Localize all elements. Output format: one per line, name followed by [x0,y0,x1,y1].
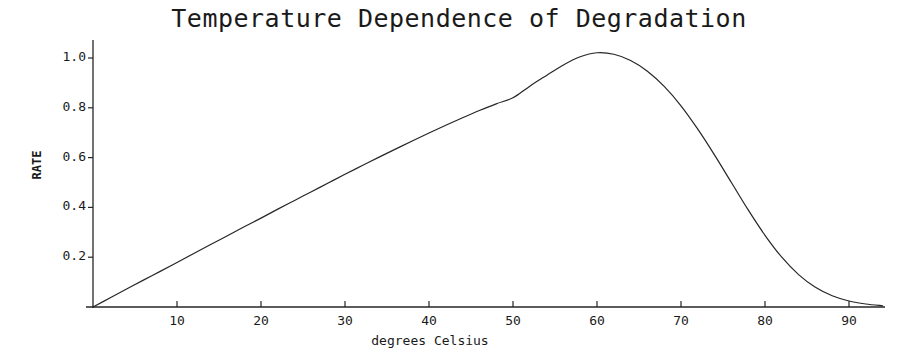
x-tick-label: 70 [651,313,711,328]
x-tick-label: 40 [399,313,459,328]
x-tick-label: 80 [735,313,795,328]
plot-area [0,0,918,355]
x-tick-label: 50 [483,313,543,328]
x-tick-label: 20 [231,313,291,328]
x-tick-label: 10 [147,313,207,328]
y-tick-label: 0.2 [31,248,86,263]
chart-container: Temperature Dependence of Degradation 0.… [0,0,918,355]
y-axis-ticks [88,58,93,257]
y-tick-label: 0.4 [31,198,86,213]
y-tick-label: 0.8 [31,99,86,114]
y-tick-label: 1.0 [31,49,86,64]
x-tick-label: 90 [819,313,879,328]
data-series-line [93,53,883,307]
x-axis-ticks [177,301,849,307]
x-tick-label: 30 [315,313,375,328]
axis-lines [86,40,885,308]
x-axis-title: degrees Celsius [0,333,860,348]
y-axis-title: RATE [30,130,44,200]
x-tick-label: 60 [567,313,627,328]
